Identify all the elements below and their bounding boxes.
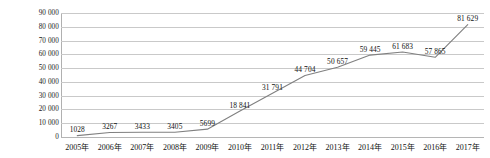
x-axis-tick: 2016年 (423, 141, 447, 152)
y-axis-tick: 30 000 (1, 92, 59, 100)
data-label: 3267 (102, 122, 117, 131)
y-axis-tick-labels: 010 00020 00030 00040 00050 00060 00070 … (0, 13, 59, 137)
x-axis-tick-labels: 2005年2006年2007年2008年2009年2010年2011年2012年… (61, 141, 484, 158)
x-axis-tick: 2012年 (293, 141, 317, 152)
x-axis-tick: 2010年 (228, 141, 252, 152)
y-axis-tick: 90 000 (1, 9, 59, 17)
y-axis-tick: 0 (1, 133, 59, 141)
y-axis-tick: 10 000 (1, 119, 59, 127)
plot-area: 1028326734333405569918 84131 79144 70450… (61, 13, 484, 137)
line-chart: 010 00020 00030 00040 00050 00060 00070 … (0, 0, 490, 158)
data-label: 57 865 (425, 47, 446, 56)
x-axis-tick: 2013年 (326, 141, 350, 152)
data-label: 50 657 (327, 57, 348, 66)
x-axis-tick: 2017年 (456, 141, 480, 152)
x-axis-tick: 2014年 (358, 141, 382, 152)
data-label: 44 704 (295, 65, 316, 74)
x-axis-tick: 2011年 (261, 141, 285, 152)
y-axis-tick: 20 000 (1, 105, 59, 113)
x-axis-tick: 2005年 (65, 141, 89, 152)
x-axis-tick: 2008年 (163, 141, 187, 152)
data-label: 31 791 (262, 83, 283, 92)
data-label: 81 629 (457, 14, 478, 23)
y-axis-tick: 40 000 (1, 78, 59, 86)
x-axis-tick: 2006年 (98, 141, 122, 152)
data-label: 3405 (167, 122, 182, 131)
x-axis-tick: 2009年 (195, 141, 219, 152)
y-axis-tick: 50 000 (1, 64, 59, 72)
x-axis-tick: 2007年 (130, 141, 154, 152)
data-label: 5699 (200, 119, 215, 128)
x-axis-tick: 2015年 (391, 141, 415, 152)
data-label: 18 841 (229, 101, 250, 110)
y-axis-tick: 80 000 (1, 23, 59, 31)
series-line (61, 13, 484, 137)
y-axis-tick: 60 000 (1, 50, 59, 58)
data-label: 3433 (135, 122, 150, 131)
gridline (61, 137, 484, 138)
y-axis-tick: 70 000 (1, 37, 59, 45)
data-label: 1028 (70, 125, 85, 134)
data-label: 59 445 (360, 45, 381, 54)
data-label: 61 683 (392, 42, 413, 51)
